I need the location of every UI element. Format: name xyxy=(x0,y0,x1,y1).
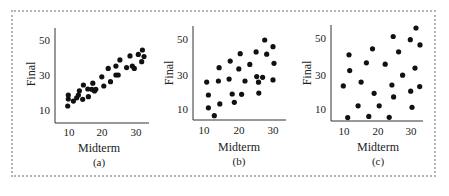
data-point xyxy=(242,78,247,83)
data-point xyxy=(77,88,82,93)
data-point xyxy=(345,115,350,120)
data-point xyxy=(377,103,382,108)
data-point xyxy=(204,80,209,85)
x-axis-label: Midterm xyxy=(218,140,261,154)
y-tick-50: 50 xyxy=(315,32,327,44)
data-point xyxy=(417,42,422,47)
data-point xyxy=(270,44,275,49)
data-point xyxy=(341,83,346,88)
y-axis-label: Final xyxy=(24,61,38,86)
data-point xyxy=(271,61,276,66)
data-point xyxy=(232,100,237,105)
data-point xyxy=(391,34,396,39)
panel-label: (c) xyxy=(372,155,385,168)
data-point xyxy=(264,52,269,57)
x-tick-20: 20 xyxy=(234,124,246,136)
data-point xyxy=(412,66,417,71)
data-point xyxy=(270,77,275,82)
x-tick-30: 30 xyxy=(406,125,418,137)
data-point xyxy=(124,65,129,70)
y-axis-label: Final xyxy=(300,60,314,85)
data-point xyxy=(216,78,221,83)
scatter-figure: 50 30 10 10 20 30 Final Midterm (a) 50 3… xyxy=(0,0,449,196)
data-point xyxy=(417,84,422,89)
data-point xyxy=(239,92,244,97)
data-point xyxy=(408,37,413,42)
panel-b: 50 30 10 10 20 30 Final Midterm (b) xyxy=(162,26,286,168)
data-point xyxy=(400,73,405,78)
data-point xyxy=(408,89,413,94)
data-point xyxy=(254,49,259,54)
data-point xyxy=(230,91,235,96)
panel-a: 50 30 10 10 20 30 Final Midterm (a) xyxy=(24,28,149,169)
data-point xyxy=(81,82,86,87)
data-points xyxy=(204,37,277,118)
data-point xyxy=(212,113,217,118)
data-point xyxy=(391,94,396,99)
x-tick-10: 10 xyxy=(339,125,351,137)
panel-label: (b) xyxy=(233,155,246,168)
x-axis-label: Midterm xyxy=(357,140,400,154)
data-point xyxy=(136,52,141,57)
data-point xyxy=(366,114,371,119)
y-tick-30: 30 xyxy=(177,69,189,81)
data-point xyxy=(127,53,132,58)
data-point xyxy=(413,25,418,30)
y-tick-30: 30 xyxy=(315,69,327,81)
data-point xyxy=(139,59,144,64)
data-point xyxy=(359,80,364,85)
data-point xyxy=(93,87,98,92)
panel-c: 50 30 10 10 20 30 Final Midterm (c) xyxy=(300,25,423,168)
y-tick-10: 10 xyxy=(315,103,327,115)
x-tick-10: 10 xyxy=(199,124,211,136)
data-point xyxy=(113,64,118,69)
data-point xyxy=(254,74,259,79)
data-point xyxy=(66,96,71,101)
data-points xyxy=(65,47,146,108)
data-point xyxy=(347,68,352,73)
y-tick-50: 50 xyxy=(39,34,51,46)
data-point xyxy=(228,59,233,64)
x-tick-30: 30 xyxy=(131,126,143,138)
y-tick-30: 30 xyxy=(39,69,51,81)
x-axis-label: Midterm xyxy=(78,141,121,155)
y-tick-10: 10 xyxy=(39,104,51,116)
x-tick-20: 20 xyxy=(97,126,109,138)
data-point xyxy=(217,65,222,70)
x-tick-10: 10 xyxy=(64,126,76,138)
data-point xyxy=(117,57,122,62)
data-point xyxy=(383,62,388,67)
data-point xyxy=(247,62,252,67)
data-point xyxy=(262,37,267,42)
data-point xyxy=(389,82,394,87)
y-axis-label: Final xyxy=(162,60,176,85)
data-point xyxy=(217,101,222,106)
data-point xyxy=(238,51,243,56)
x-tick-20: 20 xyxy=(373,125,385,137)
data-point xyxy=(372,91,377,96)
data-point xyxy=(346,52,351,57)
data-point xyxy=(387,115,392,120)
data-point xyxy=(116,72,121,77)
data-point xyxy=(396,49,401,54)
data-point xyxy=(132,66,137,71)
data-point xyxy=(99,74,104,79)
data-point xyxy=(370,46,375,51)
data-point xyxy=(86,94,91,99)
data-point xyxy=(65,103,70,108)
data-point xyxy=(364,60,369,65)
data-point xyxy=(140,47,145,52)
data-point xyxy=(409,105,414,110)
data-point xyxy=(236,66,241,71)
data-point xyxy=(106,66,111,71)
data-point xyxy=(206,92,211,97)
data-point xyxy=(141,54,146,59)
data-point xyxy=(256,80,261,85)
x-tick-30: 30 xyxy=(268,124,280,136)
data-point xyxy=(356,103,361,108)
data-point xyxy=(206,105,211,110)
panel-label: (a) xyxy=(93,156,106,169)
data-point xyxy=(80,97,85,102)
data-point xyxy=(90,81,95,86)
data-point xyxy=(101,83,106,88)
